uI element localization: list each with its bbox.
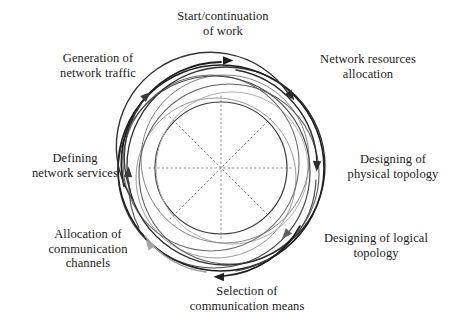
stage-label-selection-of-communication-means: Selection of communication means	[148, 284, 346, 313]
stage-label-start-continuation-of-work: Start/continuation of work	[144, 9, 302, 38]
ring-6	[141, 75, 309, 243]
stage-label-defining-network-services: Defining network services	[5, 151, 145, 180]
stage-label-network-resources-allocation: Network resources allocation	[292, 52, 444, 81]
stage-label-designing-of-logical-topology: Designing of logical topology	[296, 231, 456, 260]
ring-4	[139, 84, 319, 264]
arrow-physical-icon	[312, 161, 321, 172]
stage-label-designing-of-physical-topology: Designing of physical topology	[330, 152, 456, 181]
radial-spokes-group	[149, 96, 293, 240]
arrow-means-icon	[213, 272, 224, 281]
stage-label-allocation-of-communication-channels: Allocation of communication channels	[22, 227, 154, 271]
sweep-right-mid	[236, 70, 317, 164]
arrow-start-icon	[223, 56, 234, 64]
stage-label-generation-of-network-traffic: Generation of network traffic	[26, 51, 170, 80]
diagram-page: Start/continuation of work Network resou…	[0, 0, 457, 334]
